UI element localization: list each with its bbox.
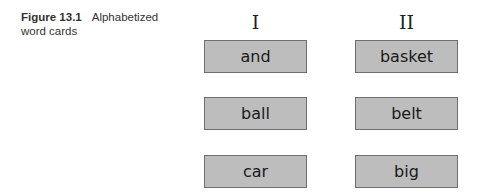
word-card: and (204, 40, 307, 73)
word-card: belt (355, 97, 458, 130)
column-header-2: II (355, 10, 458, 34)
word-card: car (204, 155, 307, 188)
figure-label: Figure 13.1 (21, 11, 82, 23)
word-card: ball (204, 97, 307, 130)
word-card: big (355, 155, 458, 188)
figure-caption: Figure 13.1Alphabetized word cards (21, 10, 171, 38)
column-header-1: I (204, 10, 307, 34)
word-card: basket (355, 40, 458, 73)
